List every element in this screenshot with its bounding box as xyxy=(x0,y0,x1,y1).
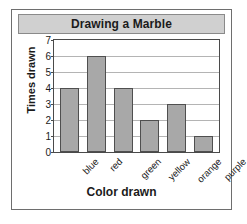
y-axis-title: Times drawn xyxy=(25,40,37,120)
bar-blue xyxy=(60,88,79,152)
x-axis-tick-label-yellow: yellow xyxy=(166,156,192,182)
x-axis-tick-label-orange: orange xyxy=(195,156,224,185)
chart-figure: Drawing a Marble Times drawn 01234567 bl… xyxy=(11,9,232,210)
bar-green xyxy=(114,88,133,152)
x-axis-title: Color drawn xyxy=(12,185,231,199)
bar-purple xyxy=(194,136,213,152)
bar-series xyxy=(54,40,219,152)
x-axis-tick-label-blue: blue xyxy=(80,156,100,176)
plot-area: 01234567 xyxy=(53,39,220,153)
bar-yellow xyxy=(140,120,159,152)
x-axis-tick-labels: blueredgreenyelloworangepurple xyxy=(53,154,220,186)
bar-orange xyxy=(167,104,186,152)
x-axis-tick-label-red: red xyxy=(107,156,124,173)
chart-title-banner: Drawing a Marble xyxy=(18,14,225,34)
x-axis-tick-label-purple: purple xyxy=(222,156,243,182)
bar-red xyxy=(87,56,106,152)
chart-title: Drawing a Marble xyxy=(71,17,172,31)
x-axis-tick-label-green: green xyxy=(138,156,163,181)
y-axis-tick-mark xyxy=(51,152,54,153)
